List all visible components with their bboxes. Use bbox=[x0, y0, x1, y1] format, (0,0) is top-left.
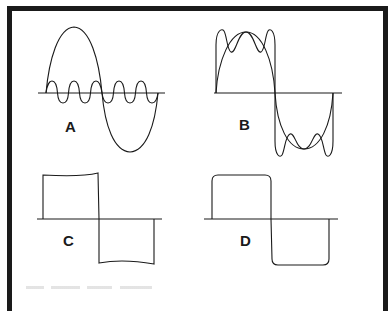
panel-a-label: A bbox=[65, 119, 76, 134]
panel-c-label: C bbox=[63, 233, 74, 248]
panel-a-waves bbox=[38, 27, 165, 152]
panel-b-label: B bbox=[239, 117, 250, 132]
faint-caption-text bbox=[26, 286, 206, 289]
panel-d-label: D bbox=[240, 233, 251, 248]
panel-d-waves bbox=[204, 175, 338, 265]
panel-a-fundamental-sine bbox=[46, 27, 158, 152]
panel-a-ripple-wave bbox=[46, 81, 158, 103]
panel-c-waves bbox=[37, 173, 162, 264]
panel-b-waves bbox=[214, 30, 342, 156]
panel-d-rounded-square-wave bbox=[212, 175, 329, 265]
